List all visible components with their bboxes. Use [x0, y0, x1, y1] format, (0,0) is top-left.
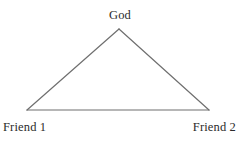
- edge-left-to-apex: [27, 29, 119, 110]
- node-label-bottom-right: Friend 2: [193, 120, 236, 134]
- node-label-apex: God: [0, 8, 240, 22]
- edge-apex-to-right: [119, 29, 209, 110]
- triangle-diagram: God Friend 1 Friend 2: [0, 0, 240, 142]
- node-label-bottom-left: Friend 1: [3, 120, 46, 134]
